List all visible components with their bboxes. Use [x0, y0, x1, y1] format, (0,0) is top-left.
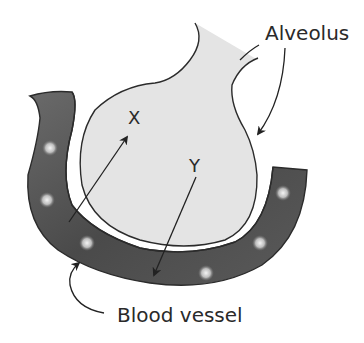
blood-cell [275, 185, 291, 201]
blood-cell [39, 192, 55, 208]
blood-cell [42, 140, 58, 156]
alveolus-body [80, 23, 258, 246]
alveolus [80, 23, 258, 246]
label-alveolus: Alveolus [265, 21, 349, 45]
blood-cell [198, 265, 214, 281]
blood-cell [79, 235, 95, 251]
label-x: X [128, 107, 140, 128]
alveolus-diagram: Alveolus Blood vessel X Y [0, 0, 364, 343]
blood-cell [252, 235, 268, 251]
label-blood-vessel: Blood vessel [117, 303, 243, 327]
alveolus-leader-2 [258, 48, 285, 134]
label-y: Y [188, 155, 201, 176]
diagram-canvas: Alveolus Blood vessel X Y [0, 0, 364, 343]
